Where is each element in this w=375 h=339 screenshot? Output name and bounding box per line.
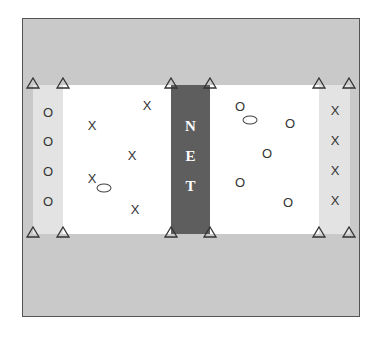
player-o: O — [43, 195, 53, 208]
cone-icon — [164, 226, 178, 238]
ball-icon — [243, 116, 258, 125]
player-x: X — [143, 99, 152, 112]
player-o: O — [43, 106, 53, 119]
player-x: X — [131, 203, 140, 216]
cone-icon — [56, 226, 70, 238]
player-x: X — [331, 194, 340, 207]
cone-icon — [164, 77, 178, 89]
net: N E T — [171, 85, 210, 234]
player-x: X — [88, 172, 97, 185]
player-o: O — [262, 147, 272, 160]
net-letter-t: T — [171, 178, 210, 194]
left-court — [63, 85, 171, 234]
cone-icon — [56, 77, 70, 89]
ball-icon — [97, 184, 112, 193]
net-letter-e: E — [171, 148, 210, 164]
cone-icon — [203, 77, 217, 89]
player-x: X — [88, 119, 97, 132]
player-x: X — [128, 149, 137, 162]
player-x: X — [331, 164, 340, 177]
player-o: O — [43, 165, 53, 178]
player-o: O — [283, 196, 293, 209]
player-o: O — [235, 100, 245, 113]
player-o: O — [43, 135, 53, 148]
player-x: X — [331, 104, 340, 117]
cone-icon — [312, 226, 326, 238]
cone-icon — [26, 77, 40, 89]
player-o: O — [235, 176, 245, 189]
player-o: O — [285, 117, 295, 130]
cone-icon — [312, 77, 326, 89]
cone-icon — [342, 77, 356, 89]
net-letter-n: N — [171, 118, 210, 134]
player-x: X — [331, 134, 340, 147]
cone-icon — [342, 226, 356, 238]
cone-icon — [26, 226, 40, 238]
cone-icon — [203, 226, 217, 238]
